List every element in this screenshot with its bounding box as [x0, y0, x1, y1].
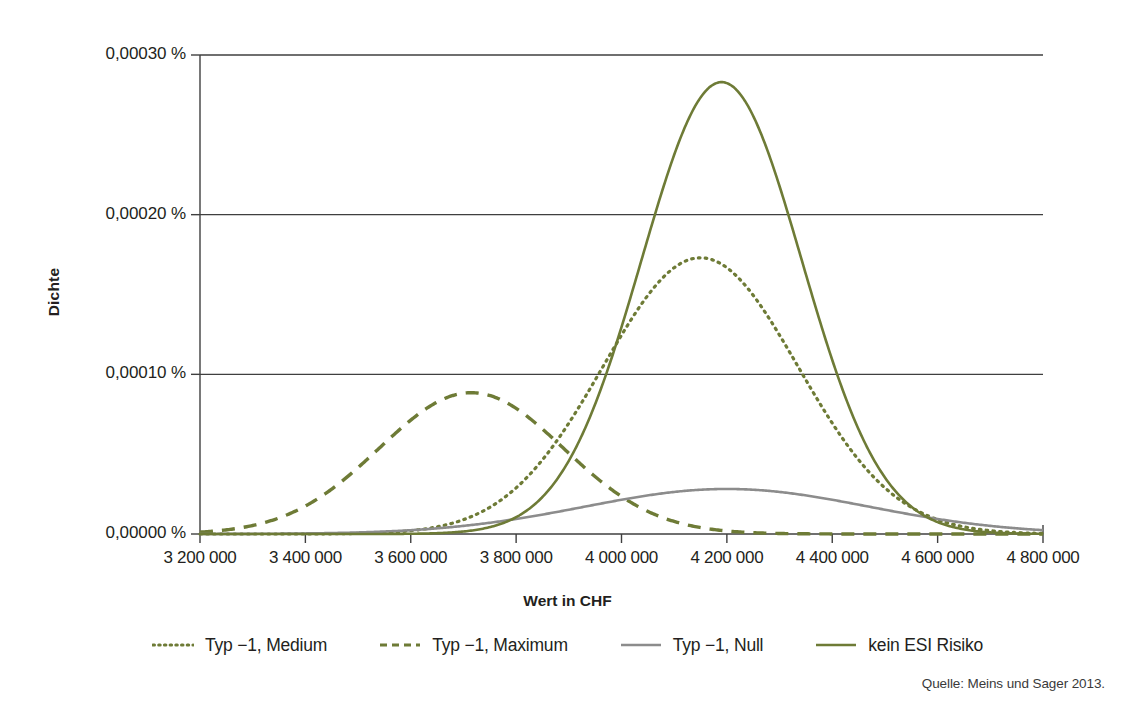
legend-swatch-solid-icon	[815, 638, 857, 652]
legend-label-1: Typ −1, Maximum	[432, 635, 568, 656]
legend-item-2[interactable]: Typ −1, Null	[620, 635, 764, 656]
legend-label-3: kein ESI Risiko	[868, 635, 983, 656]
legend-label-2: Typ −1, Null	[673, 635, 764, 656]
source-note: Quelle: Meins und Sager 2013.	[922, 676, 1105, 691]
y-tick-label-2: 0,00020 %	[106, 204, 186, 224]
y-tick-label-0: 0,00000 %	[106, 523, 186, 543]
x-tick-label-1: 3 400 000	[250, 548, 360, 568]
legend-swatch-dashed-icon	[379, 638, 421, 652]
x-tick-label-2: 3 600 000	[356, 548, 466, 568]
chart-legend: Typ −1, MediumTyp −1, MaximumTyp −1, Nul…	[0, 628, 1135, 662]
x-tick-label-5: 4 200 000	[672, 548, 782, 568]
x-axis-title: Wert in CHF	[0, 592, 1135, 610]
x-tick-label-8: 4 800 000	[988, 548, 1098, 568]
y-axis-title: Dichte	[45, 232, 63, 352]
x-tick-label-7: 4 600 000	[883, 548, 993, 568]
legend-swatch-solid-icon	[620, 638, 662, 652]
legend-item-3[interactable]: kein ESI Risiko	[815, 635, 983, 656]
x-tick-label-3: 3 800 000	[461, 548, 571, 568]
legend-swatch-dotted-icon	[152, 638, 194, 652]
series-line-1	[200, 393, 1043, 534]
x-tick-label-0: 3 200 000	[145, 548, 255, 568]
chart-figure: Dichte 0,00000 %0,00010 %0,00020 %0,0003…	[0, 0, 1135, 715]
legend-label-0: Typ −1, Medium	[205, 635, 327, 656]
y-tick-label-1: 0,00010 %	[106, 363, 186, 383]
x-tick-label-6: 4 400 000	[777, 548, 887, 568]
y-tick-label-3: 0,00030 %	[106, 44, 186, 64]
legend-item-0[interactable]: Typ −1, Medium	[152, 635, 327, 656]
series-line-3	[200, 82, 1043, 534]
legend-item-1[interactable]: Typ −1, Maximum	[379, 635, 568, 656]
x-tick-label-4: 4 000 000	[567, 548, 677, 568]
